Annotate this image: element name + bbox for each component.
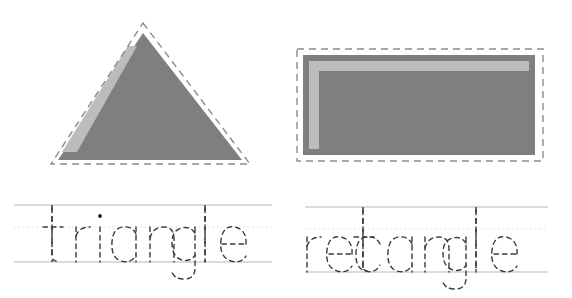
triangle-shape-panel	[0, 0, 286, 180]
letter-i-dot	[98, 214, 102, 218]
letter-a-bowl[interactable]	[388, 237, 412, 272]
rectangle-shape-panel	[286, 0, 572, 180]
triangle-fill	[58, 33, 242, 160]
letter-t[interactable]	[363, 210, 370, 271]
letter-a-bowl[interactable]	[112, 227, 136, 262]
letter-n-arch[interactable]	[425, 237, 449, 272]
letter-g-descender[interactable]	[443, 237, 466, 289]
letter-n-arch[interactable]	[150, 227, 174, 262]
tracing-letters-rectangle[interactable]	[307, 210, 517, 289]
letter-g-bowl[interactable]	[443, 238, 466, 271]
letter-r-shoulder[interactable]	[307, 237, 321, 246]
rectangle-word-panel: rectangle	[286, 180, 572, 298]
letter-t[interactable]	[52, 208, 59, 261]
tracing-letters-triangle[interactable]	[43, 208, 246, 279]
triangle-shape-svg	[0, 0, 286, 180]
shape-tracing-worksheet: triangle	[0, 0, 572, 298]
letter-r-shoulder[interactable]	[76, 227, 90, 236]
triangle-word-panel: triangle	[0, 180, 286, 298]
triangle-tracing-svg[interactable]: triangle	[0, 180, 286, 298]
letter-g-descender[interactable]	[172, 227, 195, 279]
letter-c[interactable]	[356, 237, 380, 272]
letter-g-bowl[interactable]	[172, 228, 195, 261]
rectangle-tracing-svg[interactable]: rectangle	[286, 180, 572, 298]
rectangle-shape-svg	[286, 0, 572, 180]
